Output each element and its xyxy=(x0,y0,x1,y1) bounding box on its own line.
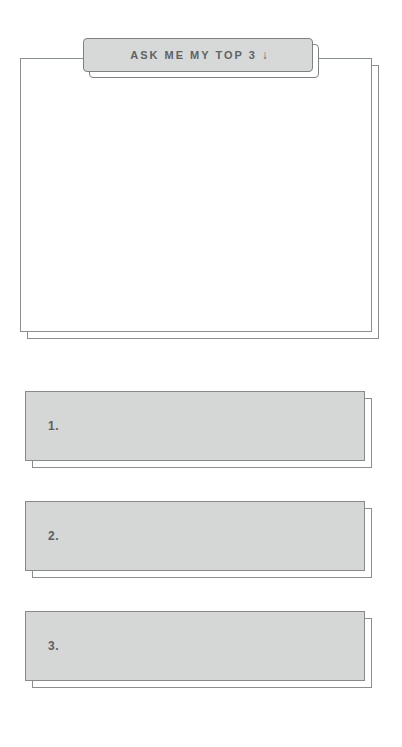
sticker-sheet-canvas: ASK ME MY TOP 3 ↓ 1. 2. 3. xyxy=(0,0,402,747)
answer-bar-2[interactable]: 2. xyxy=(25,501,365,571)
answer-bar-3-marker: 3. xyxy=(48,640,59,652)
answer-bar-2-marker: 2. xyxy=(48,530,59,542)
answer-bar-1-marker: 1. xyxy=(48,420,59,432)
prompt-card-writing-area[interactable] xyxy=(21,59,371,331)
prompt-tab-label: ASK ME MY TOP 3 xyxy=(128,50,257,61)
prompt-tab[interactable]: ASK ME MY TOP 3 ↓ xyxy=(83,38,313,72)
prompt-card[interactable] xyxy=(20,58,372,332)
answer-bar-3[interactable]: 3. xyxy=(25,611,365,681)
arrow-down-icon: ↓ xyxy=(262,49,268,61)
answer-bar-1[interactable]: 1. xyxy=(25,391,365,461)
